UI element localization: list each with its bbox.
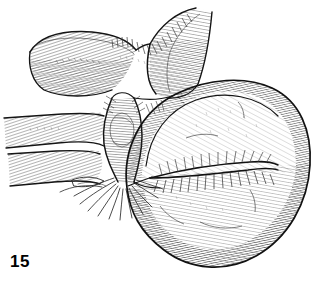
anatomical-illustration	[0, 0, 327, 296]
figure-container: 15	[0, 0, 327, 296]
figure-number-label: 15	[10, 252, 30, 272]
